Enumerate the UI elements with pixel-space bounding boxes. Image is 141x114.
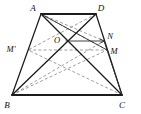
geometry-figure: A D B C O N M M' — [0, 0, 141, 114]
figure-canvas: A D B C O N M M' — [0, 0, 141, 114]
dashed-C-to-Mp — [28, 50, 122, 95]
label-D: D — [97, 3, 105, 13]
label-M-prime: M' — [6, 44, 16, 54]
solid-edges — [12, 14, 122, 95]
label-M: M — [109, 46, 118, 56]
label-B: B — [4, 100, 10, 110]
label-A: A — [29, 3, 36, 13]
label-N: N — [106, 31, 114, 41]
figure-labels: A D B C O N M M' — [4, 3, 126, 110]
dashed-B-to-N — [12, 41, 104, 95]
label-O: O — [54, 35, 60, 45]
label-C: C — [119, 100, 126, 110]
dashed-construction-lines — [12, 14, 122, 95]
dashed-D-to-Mp — [28, 14, 96, 50]
